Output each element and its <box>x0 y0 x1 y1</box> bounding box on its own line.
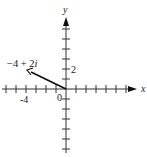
y-axis-arrow-icon <box>63 17 69 26</box>
vector-arrowhead-icon <box>27 68 33 75</box>
y-tick-label-2: 2 <box>71 64 76 75</box>
complex-plane-diagram: x y 0 -4 2 −4 + 2i <box>0 0 147 157</box>
x-axis: x <box>2 83 146 94</box>
origin-label: 0 <box>57 92 62 103</box>
y-axis-label: y <box>62 4 68 15</box>
vector-label-real: −4 + 2 <box>7 58 35 69</box>
vector-label: −4 + 2i <box>7 58 38 69</box>
x-tick-label-neg4: -4 <box>20 94 28 105</box>
y-axis: y <box>62 4 70 153</box>
x-axis-arrow-icon <box>128 86 137 92</box>
vector-label-imag-unit: i <box>35 58 38 69</box>
x-axis-label: x <box>140 83 146 94</box>
